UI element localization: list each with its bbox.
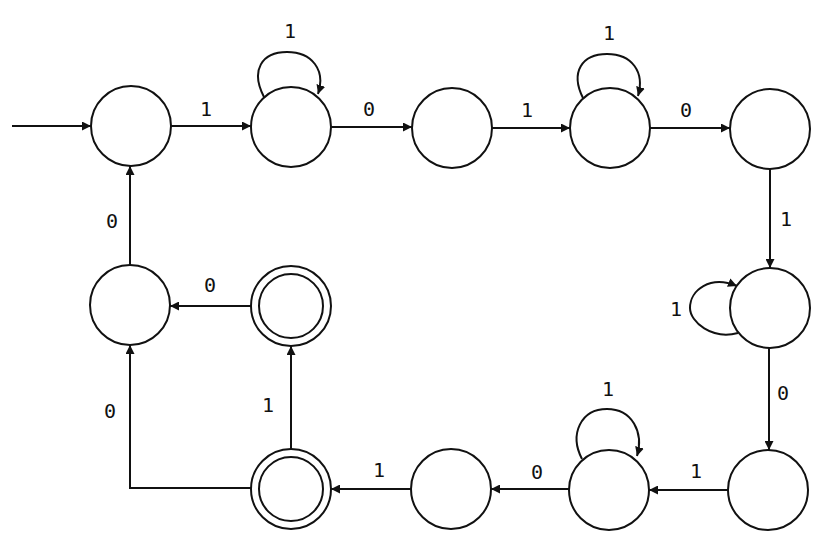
state-D: [570, 88, 650, 168]
state-H: [569, 450, 649, 530]
state-G: [728, 450, 808, 530]
state-E: [730, 89, 810, 169]
edge-label-F-loop: 1: [670, 297, 682, 321]
edge-label-E-F: 1: [780, 207, 792, 231]
edge-label-B-C: 0: [363, 97, 375, 121]
state-I: [411, 449, 491, 529]
edge-label-D-loop: 1: [603, 21, 615, 45]
edge-label-G-H: 1: [690, 459, 702, 483]
state-A: [91, 86, 171, 166]
state-B: [251, 87, 331, 167]
state-L: [90, 265, 170, 345]
edge-label-C-D: 1: [521, 98, 533, 122]
edge-label-I-J: 1: [373, 458, 385, 482]
state-J-accepting: [251, 449, 331, 529]
edge-label-H-I: 0: [531, 460, 543, 484]
edge-label-K-L: 0: [204, 273, 216, 297]
edge-label-J-L: 0: [104, 399, 116, 423]
state-diagram: 1 1 0 1 1 0 1 1 0 1 1 0 1 1 0 0 0: [0, 0, 824, 538]
edge-label-D-E: 0: [680, 98, 692, 122]
state-F: [730, 268, 810, 348]
edge-label-H-loop: 1: [602, 377, 614, 401]
edge-label-B-loop: 1: [284, 19, 296, 43]
edge-label-A-B: 1: [200, 97, 212, 121]
edge-label-J-K: 1: [262, 393, 274, 417]
state-K-accepting: [251, 266, 331, 346]
edge-label-F-G: 0: [777, 381, 789, 405]
edge-J-L: [130, 345, 251, 488]
state-C: [412, 88, 492, 168]
edge-label-L-A: 0: [106, 209, 118, 233]
